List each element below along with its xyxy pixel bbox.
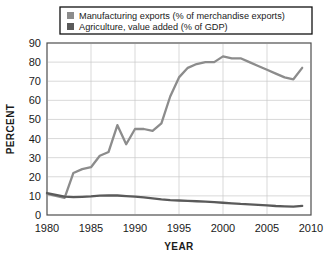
y-axis-title: PERCENT bbox=[5, 104, 16, 155]
y-axis-tick-label: 60 bbox=[29, 94, 41, 106]
y-axis-tick-label: 80 bbox=[29, 56, 41, 68]
line-chart: 0102030405060708090198019851990199520002… bbox=[0, 0, 332, 266]
y-axis-tick-label: 20 bbox=[29, 171, 41, 183]
legend-label-2: Agriculture, value added (% of GDP) bbox=[79, 22, 228, 32]
x-axis-tick-label: 1980 bbox=[35, 222, 59, 234]
x-axis-tick-label: 2000 bbox=[211, 222, 235, 234]
chart-container: 0102030405060708090198019851990199520002… bbox=[0, 0, 332, 266]
x-axis-tick-label: 2005 bbox=[255, 222, 279, 234]
y-axis-tick-label: 70 bbox=[29, 75, 41, 87]
legend-swatch-2 bbox=[67, 23, 74, 30]
y-axis-tick-label: 90 bbox=[29, 37, 41, 49]
x-axis-tick-label: 2010 bbox=[299, 222, 323, 234]
legend-swatch-1 bbox=[67, 12, 74, 19]
x-axis-title: YEAR bbox=[164, 241, 194, 252]
y-axis-tick-label: 30 bbox=[29, 152, 41, 164]
y-axis-tick-label: 50 bbox=[29, 113, 41, 125]
x-axis-tick-label: 1995 bbox=[167, 222, 191, 234]
y-axis-tick-label: 40 bbox=[29, 133, 41, 145]
y-axis-tick-label: 0 bbox=[35, 209, 41, 221]
legend-label-1: Manufacturing exports (% of merchandise … bbox=[79, 11, 285, 21]
y-axis-tick-label: 10 bbox=[29, 190, 41, 202]
x-axis-tick-label: 1990 bbox=[123, 222, 147, 234]
x-axis-tick-label: 1985 bbox=[79, 222, 103, 234]
